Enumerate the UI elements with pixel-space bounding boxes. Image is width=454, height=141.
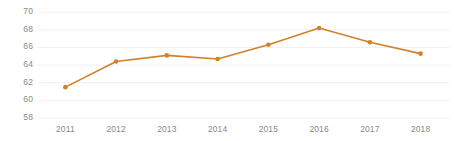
chart-plot-area (0, 0, 454, 141)
x-axis-tick-label: 2017 (350, 124, 390, 134)
x-axis-tick-label: 2016 (299, 124, 339, 134)
y-axis-tick-label: 70 (13, 6, 33, 16)
data-point-marker (215, 57, 220, 62)
y-axis-tick-label: 64 (13, 59, 33, 69)
y-axis-tick-label: 66 (13, 41, 33, 51)
series-line (65, 28, 420, 87)
data-point-marker (317, 26, 322, 31)
x-axis-tick-label: 2012 (96, 124, 136, 134)
y-axis-tick-label: 62 (13, 77, 33, 87)
y-axis-tick-label: 68 (13, 24, 33, 34)
line-chart: 58606264666870 2011201220132014201520162… (0, 0, 454, 141)
x-axis-tick-label: 2015 (248, 124, 288, 134)
y-axis-tick-label: 60 (13, 94, 33, 104)
data-point-marker (63, 85, 68, 90)
x-axis-tick-label: 2013 (147, 124, 187, 134)
x-axis-tick-label: 2014 (198, 124, 238, 134)
data-point-marker (368, 40, 373, 45)
data-line-series-0 (65, 28, 420, 87)
gridlines (38, 12, 450, 118)
series-markers (63, 26, 423, 90)
x-axis-tick-label: 2011 (45, 124, 85, 134)
x-axis-tick-label: 2018 (401, 124, 441, 134)
data-point-marker (165, 53, 170, 58)
data-point-marker (418, 51, 423, 56)
data-point-marker (266, 43, 271, 48)
data-point-marker (114, 59, 119, 64)
y-axis-tick-label: 58 (13, 112, 33, 122)
